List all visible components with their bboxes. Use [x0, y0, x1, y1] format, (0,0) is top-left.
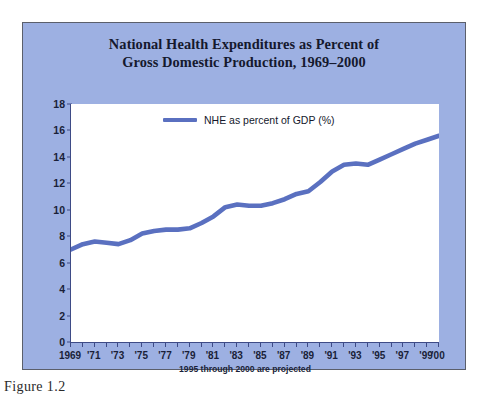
- x-tick-mark-1978: [177, 342, 178, 347]
- x-tick-mark-1987: [284, 342, 285, 347]
- y-tick-label-14: 14: [53, 151, 65, 163]
- figure-panel: National Health Expenditures as Percent …: [22, 22, 466, 370]
- series-line-nhe-as-percent-of-gdp: [71, 136, 439, 250]
- x-tick-label-1987: '87: [277, 350, 291, 361]
- x-tick-mark-2000: [438, 342, 439, 347]
- chart-legend: NHE as percent of GDP (%): [163, 114, 335, 126]
- x-tick-mark-1991: [331, 342, 332, 347]
- y-tick-label-6: 6: [59, 257, 65, 269]
- x-tick-label-2000: '00: [431, 350, 445, 361]
- axis-note: 1995 through 2000 are projected: [23, 364, 467, 374]
- y-tick-label-2: 2: [59, 310, 65, 322]
- x-tick-mark-1986: [272, 342, 273, 347]
- x-tick-label-1989: '89: [301, 350, 315, 361]
- x-tick-mark-1994: [367, 342, 368, 347]
- x-tick-label-1983: '83: [229, 350, 243, 361]
- x-tick-mark-1989: [307, 342, 308, 347]
- x-tick-mark-1970: [82, 342, 83, 347]
- x-tick-label-1981: '81: [206, 350, 220, 361]
- x-tick-label-1977: '77: [158, 350, 172, 361]
- x-tick-mark-1997: [402, 342, 403, 347]
- x-tick-mark-1973: [117, 342, 118, 347]
- chart-title-line-2: Gross Domestic Production, 1969–2000: [23, 53, 465, 71]
- x-tick-mark-1982: [224, 342, 225, 347]
- x-tick-mark-1999: [426, 342, 427, 347]
- x-tick-mark-1985: [260, 342, 261, 347]
- x-tick-label-1997: '97: [396, 350, 410, 361]
- chart-title: National Health Expenditures as Percent …: [23, 35, 465, 71]
- x-tick-mark-1990: [319, 342, 320, 347]
- x-tick-label-1971: '71: [87, 350, 101, 361]
- x-tick-mark-1977: [165, 342, 166, 347]
- figure-caption: Figure 1.2: [4, 379, 66, 395]
- y-tick-label-0: 0: [59, 336, 65, 348]
- x-tick-mark-1972: [106, 342, 107, 347]
- y-tick-label-4: 4: [59, 283, 65, 295]
- legend-swatch-nhe: [163, 118, 197, 123]
- x-tick-label-1991: '91: [324, 350, 338, 361]
- x-tick-label-1975: '75: [134, 350, 148, 361]
- x-tick-mark-1995: [379, 342, 380, 347]
- x-tick-label-1985: '85: [253, 350, 267, 361]
- x-tick-mark-1984: [248, 342, 249, 347]
- plot-area: [70, 104, 439, 343]
- x-tick-mark-1979: [189, 342, 190, 347]
- x-tick-mark-1981: [212, 342, 213, 347]
- x-tick-mark-1974: [129, 342, 130, 347]
- y-tick-label-10: 10: [53, 204, 65, 216]
- x-tick-mark-1998: [414, 342, 415, 347]
- x-tick-mark-1976: [153, 342, 154, 347]
- x-tick-mark-1969: [70, 342, 71, 347]
- y-axis-labels: 024681012141618: [43, 104, 65, 342]
- chart-title-line-1: National Health Expenditures as Percent …: [109, 36, 379, 52]
- x-tick-mark-1983: [236, 342, 237, 347]
- y-tick-label-16: 16: [53, 124, 65, 136]
- legend-label-nhe: NHE as percent of GDP (%): [204, 114, 335, 126]
- y-tick-label-12: 12: [53, 177, 65, 189]
- x-tick-mark-1992: [343, 342, 344, 347]
- x-tick-mark-1996: [391, 342, 392, 347]
- x-tick-mark-1971: [94, 342, 95, 347]
- x-tick-label-1995: '95: [372, 350, 386, 361]
- x-tick-mark-1980: [201, 342, 202, 347]
- x-tick-label-1969: 1969: [59, 350, 81, 361]
- x-axis-labels: 1969'71'73'75'77'79'81'83'85'87'89'91'93…: [23, 350, 467, 364]
- x-tick-mark-1993: [355, 342, 356, 347]
- y-tick-label-8: 8: [59, 230, 65, 242]
- y-tick-label-18: 18: [53, 98, 65, 110]
- chart-plot-svg: [71, 104, 439, 342]
- x-tick-mark-1988: [296, 342, 297, 347]
- x-tick-mark-1975: [141, 342, 142, 347]
- x-tick-label-1979: '79: [182, 350, 196, 361]
- x-tick-label-1973: '73: [111, 350, 125, 361]
- x-axis-ticks: [70, 342, 439, 348]
- x-tick-label-1993: '93: [348, 350, 362, 361]
